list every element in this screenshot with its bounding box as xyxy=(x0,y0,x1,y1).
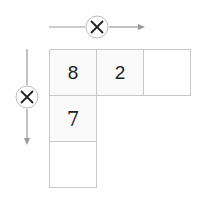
vertical-arrow xyxy=(16,49,38,145)
horizontal-arrow xyxy=(49,16,145,38)
grid-cell-r0c1: 2 xyxy=(96,49,144,96)
grid-cell-r0c2 xyxy=(143,49,191,96)
grid-cell-r2c0 xyxy=(49,141,97,188)
grid-cell-r1c0: 7 xyxy=(49,95,97,142)
grid-cell-r0c0: 8 xyxy=(49,49,97,96)
arrows-layer xyxy=(0,0,206,202)
